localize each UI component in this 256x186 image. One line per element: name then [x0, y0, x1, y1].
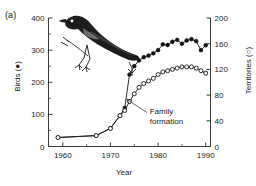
- data-point-territories: [156, 73, 160, 77]
- data-point-birds: [151, 51, 155, 55]
- panel-label: (a): [5, 10, 16, 20]
- x-tick-label: 1960: [54, 151, 72, 160]
- y-tick-label: 0: [40, 143, 45, 152]
- data-point-territories: [175, 66, 179, 70]
- data-point-territories: [108, 127, 112, 131]
- data-point-birds: [170, 40, 174, 44]
- x-axis-title: Year: [116, 168, 132, 177]
- data-point-territories: [170, 67, 174, 71]
- data-point-territories: [118, 114, 122, 118]
- data-point-birds: [194, 39, 198, 43]
- y2-tick-label: 120: [215, 65, 229, 74]
- y-axis-left-ticks: 0100200300400: [31, 14, 52, 152]
- data-point-territories: [194, 66, 198, 70]
- y-axis-right-ticks: 04080120160200: [207, 14, 229, 152]
- data-point-territories: [147, 79, 151, 83]
- y-tick-label: 100: [31, 110, 45, 119]
- annotation-layer: Familyformation: [127, 99, 183, 126]
- data-point-birds: [190, 37, 194, 41]
- y2-tick-label: 80: [215, 91, 224, 100]
- data-point-territories: [189, 65, 193, 69]
- data-point-birds: [204, 43, 208, 47]
- y2-tick-label: 160: [215, 40, 229, 49]
- x-tick-label: 1980: [149, 151, 167, 160]
- data-point-birds: [166, 43, 170, 47]
- data-point-birds: [161, 42, 165, 46]
- data-point-territories: [137, 85, 141, 89]
- data-point-birds: [156, 48, 160, 52]
- y-tick-label: 400: [31, 14, 45, 23]
- y-tick-label: 200: [31, 78, 45, 87]
- data-point-territories: [123, 109, 127, 113]
- x-axis-ticks: 1960197019801990: [54, 143, 215, 160]
- y2-tick-label: 40: [215, 117, 224, 126]
- data-point-territories: [199, 69, 203, 73]
- data-point-birds: [147, 54, 151, 58]
- x-tick-label: 1970: [102, 151, 120, 160]
- data-point-territories: [94, 134, 98, 138]
- data-point-territories: [132, 92, 136, 96]
- data-point-birds: [185, 39, 189, 43]
- data-point-territories: [56, 136, 60, 140]
- data-point-birds: [175, 38, 179, 42]
- annotation-family-formation-line2: formation: [150, 117, 183, 126]
- data-point-territories: [151, 76, 155, 80]
- figure-panel: (a): [0, 0, 256, 186]
- data-point-territories: [161, 70, 165, 74]
- annotation-family-formation-line1: Family: [150, 107, 174, 116]
- data-point-birds: [199, 48, 203, 52]
- y-axis-right-title: Territories (○): [244, 36, 253, 106]
- data-point-territories: [166, 69, 170, 73]
- data-point-territories: [142, 82, 146, 86]
- y-tick-label: 300: [31, 46, 45, 55]
- data-point-territories: [180, 65, 184, 69]
- data-point-birds: [180, 42, 184, 46]
- data-point-territories: [185, 65, 189, 69]
- y-axis-left-title: Birds (●): [13, 47, 22, 107]
- data-point-territories: [204, 71, 208, 75]
- x-tick-label: 1990: [197, 151, 215, 160]
- bird-illustration: [57, 4, 145, 78]
- y2-tick-label: 0: [215, 143, 220, 152]
- y2-tick-label: 200: [215, 14, 229, 23]
